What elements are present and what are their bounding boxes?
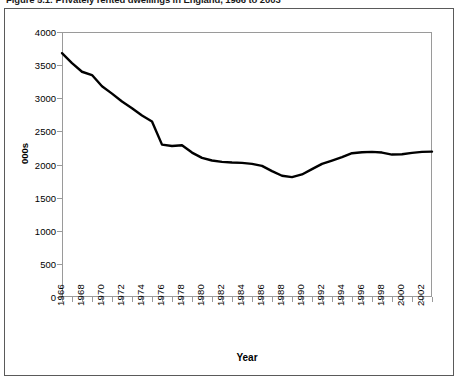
x-axis-tick-mark — [192, 297, 193, 302]
x-axis-tick-mark — [432, 297, 433, 302]
x-axis-tick-label: 1990 — [295, 284, 306, 306]
x-axis-tick-label: 2000 — [395, 284, 406, 306]
x-axis-tick-mark — [72, 297, 73, 302]
x-axis-tick-mark — [352, 297, 353, 302]
x-axis-tick-label: 1966 — [55, 284, 66, 306]
y-axis-tick-mark — [57, 98, 62, 99]
y-axis-tick-label: 2000 — [35, 159, 56, 170]
x-axis-title: Year — [62, 352, 432, 363]
x-axis-tick-mark — [332, 297, 333, 302]
y-axis-tick-mark — [57, 231, 62, 232]
y-axis-tick-mark — [57, 131, 62, 132]
line-chart: 05001000150020002500300035004000 000s 19… — [0, 0, 462, 381]
x-axis-tick-mark — [112, 297, 113, 302]
x-axis-tick-mark — [312, 297, 313, 302]
y-axis-tick-label: 4000 — [35, 27, 56, 38]
y-axis-tick-label: 2500 — [35, 126, 56, 137]
x-axis-tick-mark — [252, 297, 253, 302]
x-axis-tick-label: 1974 — [135, 284, 146, 306]
y-axis-tick-label: 3000 — [35, 93, 56, 104]
x-axis-tick-label: 1968 — [75, 284, 86, 306]
x-axis-tick-label: 1984 — [235, 284, 246, 306]
x-axis-tick-label: 1972 — [115, 284, 126, 306]
x-axis-tick-mark — [292, 297, 293, 302]
x-axis-tick-mark — [132, 297, 133, 302]
x-axis-tick-label: 1978 — [175, 284, 186, 306]
y-axis-tick-mark — [57, 198, 62, 199]
x-axis-tick-mark — [392, 297, 393, 302]
x-axis-tick-label: 1996 — [355, 284, 366, 306]
x-axis-tick-label: 1986 — [255, 284, 266, 306]
x-axis-tick-mark — [412, 297, 413, 302]
x-axis-tick-label: 1998 — [375, 284, 386, 306]
x-axis-tick-mark — [92, 297, 93, 302]
figure-page: Figure 5.1: Privately rented dwellings i… — [0, 0, 462, 381]
x-axis-tick-mark — [152, 297, 153, 302]
y-axis-tick-label: 3500 — [35, 60, 56, 71]
x-axis-tick-mark — [372, 297, 373, 302]
x-axis-tick-mark — [272, 297, 273, 302]
plot-area-border — [62, 32, 432, 297]
y-axis-tick-label: 1000 — [35, 225, 56, 236]
y-axis-tick-mark — [57, 264, 62, 265]
y-axis-tick-label: 500 — [40, 258, 56, 269]
x-axis-tick-mark — [212, 297, 213, 302]
x-axis-tick-label: 1992 — [315, 284, 326, 306]
x-axis-tick-mark — [232, 297, 233, 302]
x-axis-tick-label: 2002 — [415, 284, 426, 306]
y-axis-title: 000s — [19, 124, 30, 184]
x-axis-tick-label: 1976 — [155, 284, 166, 306]
x-axis-tick-label: 1982 — [215, 284, 226, 306]
y-axis-tick-mark — [57, 32, 62, 33]
x-axis-tick-label: 1970 — [95, 284, 106, 306]
y-axis-tick-label: 1500 — [35, 192, 56, 203]
x-axis-tick-mark — [172, 297, 173, 302]
y-axis-tick-mark — [57, 65, 62, 66]
x-axis-tick-label: 1994 — [335, 284, 346, 306]
x-axis-tick-label: 1980 — [195, 284, 206, 306]
y-axis-tick-mark — [57, 165, 62, 166]
x-axis-tick-label: 1988 — [275, 284, 286, 306]
